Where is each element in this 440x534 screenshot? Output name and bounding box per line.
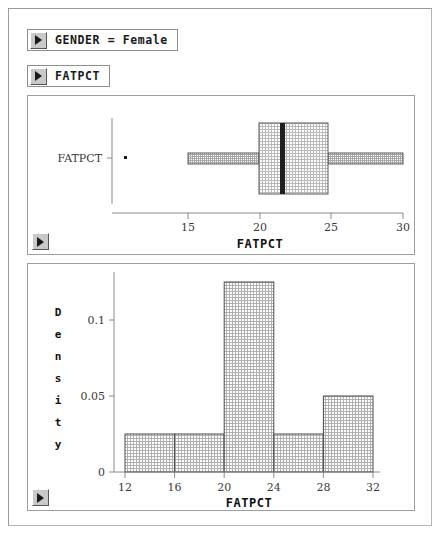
histogram-y-title-letter-2: n xyxy=(55,350,62,363)
histogram-svg: 0 0.05 0.1 D e n s i t y xyxy=(28,264,414,510)
boxplot-whisker-high xyxy=(328,153,403,164)
histogram-bar-4 xyxy=(323,396,373,472)
gender-filter-control[interactable]: GENDER = Female xyxy=(27,29,178,51)
histogram-ytick-0: 0 xyxy=(98,466,105,479)
histogram-xtick-5: 32 xyxy=(366,481,380,494)
histogram-xtick-4: 28 xyxy=(316,481,330,494)
histogram-y-title-letter-6: y xyxy=(55,438,62,451)
histogram-y-title-letter-0: D xyxy=(55,306,62,319)
boxplot-svg: FATPCT 15 20 25 30 xyxy=(28,96,414,254)
boxplot-box xyxy=(259,123,328,194)
histogram-bar-2 xyxy=(224,282,274,472)
boxplot-x-title: FATPCT xyxy=(237,237,283,251)
boxplot-median-line xyxy=(280,123,285,194)
window-frame: GENDER = Female FATPCT xyxy=(8,8,432,526)
boxplot-panel: FATPCT 15 20 25 30 xyxy=(27,95,415,255)
histogram-xtick-3: 24 xyxy=(267,481,281,494)
histogram-y-title-letter-3: s xyxy=(55,372,62,385)
boxplot-xtick-2: 25 xyxy=(324,221,338,234)
play-triangle-icon[interactable] xyxy=(30,68,47,85)
histogram-y-title-letter-4: i xyxy=(55,394,62,407)
boxplot-y-label: FATPCT xyxy=(57,152,102,165)
histogram-ytick-2: 0.1 xyxy=(88,314,106,327)
boxplot-xtick-3: 30 xyxy=(396,221,410,234)
histogram-bar-0 xyxy=(125,434,175,472)
boxplot-xtick-0: 15 xyxy=(181,221,195,234)
histogram-y-title-letter-1: e xyxy=(55,328,62,341)
boxplot-whisker-low xyxy=(188,153,259,164)
variable-label: FATPCT xyxy=(47,69,109,83)
boxplot-xtick-1: 20 xyxy=(253,221,267,234)
histogram-bar-3 xyxy=(274,434,324,472)
histogram-panel: 0 0.05 0.1 D e n s i t y xyxy=(27,263,415,511)
histogram-ytick-1: 0.05 xyxy=(81,390,106,403)
histogram-y-title-letter-5: t xyxy=(55,416,62,429)
histogram-xtick-0: 12 xyxy=(118,481,132,494)
play-triangle-icon[interactable] xyxy=(30,32,47,49)
histogram-expand-button[interactable] xyxy=(32,489,49,506)
histogram-bar-1 xyxy=(175,434,225,472)
histogram-xtick-2: 20 xyxy=(217,481,231,494)
variable-control[interactable]: FATPCT xyxy=(27,65,110,87)
boxplot-expand-button[interactable] xyxy=(32,233,49,250)
histogram-xtick-1: 16 xyxy=(168,481,182,494)
histogram-x-title: FATPCT xyxy=(226,496,272,510)
output-window: GENDER = Female FATPCT xyxy=(0,0,440,534)
boxplot-outlier-point xyxy=(124,156,127,159)
gender-filter-label: GENDER = Female xyxy=(47,33,177,47)
